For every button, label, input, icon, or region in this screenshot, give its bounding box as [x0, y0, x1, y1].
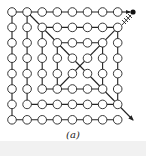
grid-node	[68, 69, 77, 78]
end-dot	[130, 9, 135, 14]
bottom-band	[0, 141, 146, 156]
grid-node	[98, 54, 107, 63]
grid-node	[8, 100, 17, 109]
grid-node	[98, 100, 107, 109]
grid-node	[38, 39, 47, 48]
grid-node	[113, 100, 122, 109]
figure-caption: (a)	[0, 129, 146, 140]
grid-node	[38, 54, 47, 63]
grid-node	[83, 85, 92, 94]
grid-node	[68, 23, 77, 32]
grid-node	[53, 39, 62, 48]
grid-node	[113, 8, 122, 17]
grid-node	[53, 54, 62, 63]
grid-node	[98, 116, 107, 125]
grid-node	[38, 116, 47, 125]
grid-node	[68, 116, 77, 125]
grid-path-diagram	[0, 0, 146, 140]
grid-node	[8, 39, 17, 48]
grid-node	[23, 85, 32, 94]
grid-node	[53, 116, 62, 125]
node-circles	[8, 8, 122, 124]
grid-node	[53, 69, 62, 78]
grid-node	[83, 54, 92, 63]
grid-node	[68, 85, 77, 94]
grid-node	[8, 85, 17, 94]
grid-node	[8, 8, 17, 17]
grid-node	[38, 23, 47, 32]
grid-node	[113, 23, 122, 32]
grid-node	[23, 23, 32, 32]
grid-node	[98, 39, 107, 48]
hatched-arrow	[122, 14, 132, 25]
grid-node	[23, 69, 32, 78]
grid-node	[53, 100, 62, 109]
grid-node	[83, 23, 92, 32]
grid-node	[83, 100, 92, 109]
grid-node	[38, 100, 47, 109]
grid-node	[23, 116, 32, 125]
grid-node	[113, 85, 122, 94]
grid-node	[98, 85, 107, 94]
grid-node	[53, 85, 62, 94]
grid-node	[23, 8, 32, 17]
grid-node	[68, 54, 77, 63]
grid-node	[83, 116, 92, 125]
grid-node	[98, 8, 107, 17]
grid-node	[68, 39, 77, 48]
grid-node	[83, 69, 92, 78]
grid-node	[113, 54, 122, 63]
grid-node	[23, 54, 32, 63]
grid-node	[98, 23, 107, 32]
grid-node	[68, 100, 77, 109]
grid-node	[113, 39, 122, 48]
grid-node	[23, 39, 32, 48]
grid-node	[98, 69, 107, 78]
grid-node	[53, 23, 62, 32]
grid-node	[38, 69, 47, 78]
grid-node	[8, 54, 17, 63]
grid-node	[68, 8, 77, 17]
grid-node	[113, 116, 122, 125]
grid-node	[8, 69, 17, 78]
grid-node	[83, 8, 92, 17]
grid-node	[38, 8, 47, 17]
grid-node	[113, 69, 122, 78]
grid-node	[8, 116, 17, 125]
grid-node	[23, 100, 32, 109]
grid-node	[83, 39, 92, 48]
grid-node	[38, 85, 47, 94]
grid-node	[8, 23, 17, 32]
grid-node	[53, 8, 62, 17]
